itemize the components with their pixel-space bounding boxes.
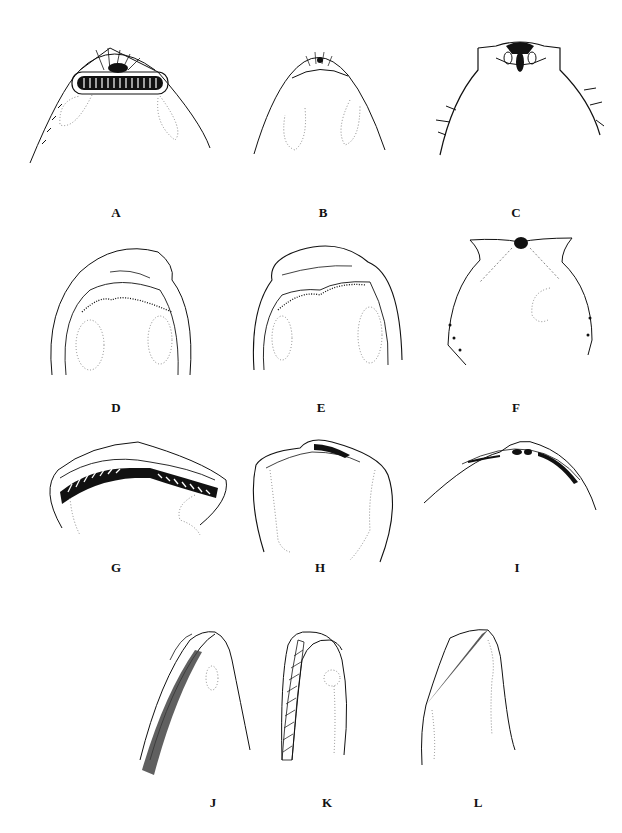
panel-h: H bbox=[220, 400, 420, 580]
panel-label-l: L bbox=[468, 795, 488, 811]
panel-i: I bbox=[420, 400, 622, 580]
panel-j: J bbox=[140, 620, 280, 790]
drawing-h bbox=[220, 400, 420, 580]
panel-e: E bbox=[220, 200, 420, 400]
panel-label-k: K bbox=[317, 795, 337, 811]
panel-label-h: H bbox=[310, 560, 330, 576]
drawing-k bbox=[280, 620, 380, 790]
panel-a: A bbox=[0, 0, 220, 200]
drawing-j bbox=[140, 620, 280, 790]
drawing-c bbox=[420, 0, 622, 200]
panel-label-g: G bbox=[106, 560, 126, 576]
drawing-a bbox=[0, 0, 220, 200]
panel-label-j: J bbox=[203, 795, 223, 811]
panel-f: F bbox=[420, 200, 622, 400]
panel-c: C bbox=[420, 0, 622, 200]
drawing-i bbox=[420, 400, 622, 580]
panel-k: K bbox=[280, 620, 380, 790]
drawing-g bbox=[0, 400, 220, 580]
drawing-d bbox=[0, 200, 220, 400]
panel-d: D bbox=[0, 200, 220, 400]
panel-label-i: I bbox=[507, 560, 527, 576]
panel-l: L bbox=[420, 620, 560, 790]
panel-b: B bbox=[220, 0, 420, 200]
panel-g: G bbox=[0, 400, 220, 580]
drawing-b bbox=[220, 0, 420, 200]
drawing-f bbox=[420, 200, 622, 400]
drawing-e bbox=[220, 200, 420, 400]
drawing-l bbox=[420, 620, 560, 790]
